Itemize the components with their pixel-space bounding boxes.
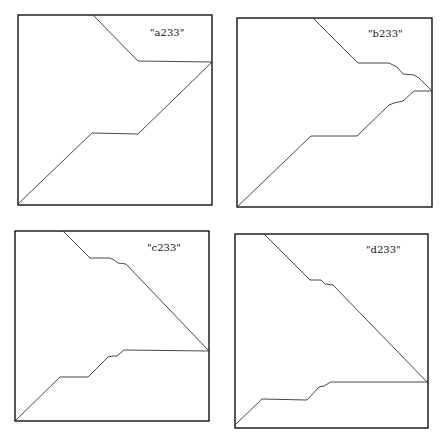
panel-d-label: "d233": [366, 244, 401, 255]
panel-d-lower-path: [235, 382, 428, 425]
panel-a-upper-path: [93, 15, 212, 62]
panel-c-lower-path: [15, 350, 209, 421]
panel-d-upper-path: [264, 234, 428, 383]
panel-b-label: "b233": [368, 28, 403, 39]
diagram-canvas: "a233" "b233" "c233" "d233": [0, 0, 447, 443]
panel-c-upper-path: [63, 231, 209, 351]
panel-d: "d233": [235, 234, 428, 428]
panel-c-label: "c233": [147, 242, 181, 253]
panel-a-label: "a233": [150, 27, 184, 38]
panel-b-lower-path: [237, 91, 432, 207]
panel-a-lower-path: [18, 62, 212, 204]
panel-c: "c233": [15, 231, 209, 421]
panel-a: "a233": [18, 15, 212, 205]
panel-b: "b233": [237, 18, 432, 207]
